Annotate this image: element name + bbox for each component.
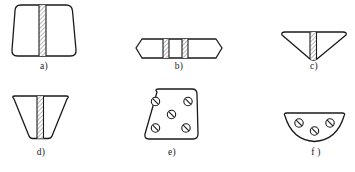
figure-item-d	[6, 92, 76, 144]
shape-c-downward-triangle	[277, 28, 351, 62]
caption-c: c)	[290, 62, 338, 72]
figure-item-f	[279, 110, 351, 146]
shape-a-band-group	[39, 2, 46, 60]
shape-d-tapered-trapezoid	[6, 92, 76, 144]
fastener-mark-icon	[310, 127, 318, 135]
caption-b: b)	[155, 62, 203, 72]
fastener-mark-icon	[326, 119, 334, 127]
fastener-mark-icon	[151, 124, 159, 132]
shape-c-band-group	[310, 28, 317, 62]
shape-b-outline	[136, 39, 222, 58]
figure-item-e	[136, 87, 208, 145]
figure-item-a	[6, 2, 82, 60]
shape-d-band-group	[37, 92, 44, 144]
shape-b-flat-hexagon	[133, 35, 225, 63]
fastener-mark-icon	[167, 110, 175, 118]
shape-b-hatched-band-1	[163, 35, 169, 63]
fastener-mark-icon	[295, 119, 303, 127]
caption-d: d)	[17, 148, 65, 158]
shape-c-hatched-band	[310, 28, 317, 62]
caption-f: f )	[292, 148, 340, 158]
fastener-mark-icon	[184, 97, 192, 105]
shape-a-hatched-band	[39, 2, 46, 60]
figure-item-b	[133, 35, 225, 63]
fastener-mark-icon	[151, 97, 159, 105]
shape-d-hatched-band	[37, 92, 44, 144]
figure-item-c	[277, 28, 351, 62]
shape-e-rounded-trapezoid-wide-bottom	[136, 87, 208, 145]
caption-a: a)	[20, 62, 68, 72]
shape-f-half-disc	[279, 110, 351, 146]
caption-e: e)	[148, 148, 196, 158]
shape-a-rounded-trapezoid-wide-top	[6, 2, 82, 60]
figure-diagram: a) b)	[0, 0, 355, 172]
shape-b-hatched-band-2	[182, 35, 188, 63]
fastener-mark-icon	[182, 124, 190, 132]
